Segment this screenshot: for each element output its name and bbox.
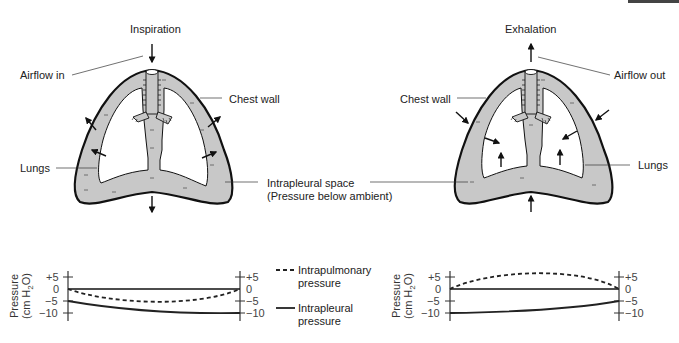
inspiration-pressure-chart [63,271,245,321]
exhalation-pressure-chart [445,271,624,321]
tick-left-0: 0 [435,284,441,295]
tick-right-minus5: −5 [246,296,259,307]
tick-right-minus5: −5 [625,296,638,307]
legend-intrapulmonary-line2: pressure [298,277,341,289]
y-axis-label-left: Pressure (cm H2O) [8,266,37,326]
tick-left-plus5: +5 [428,272,441,283]
tick-left-0: 0 [53,284,59,295]
y-axis-label-right: Pressure (cm H2O) [390,266,419,326]
legend-intrapulmonary-line1: Intrapulmonary [298,264,371,276]
exhalation-thorax [370,44,630,212]
intrapulmonary-curve [450,273,619,289]
inspiration-title: Inspiration [130,23,181,35]
tick-left-minus10: −10 [39,308,58,319]
exhalation-title: Exhalation [505,23,556,35]
tick-left-plus5: +5 [46,272,59,283]
ylabel-pressure: Pressure [390,266,402,326]
legend [276,270,295,308]
legend-intrapleural-line1: Intrapleural [298,302,353,314]
inspiration-thorax [56,44,258,212]
chest-wall-label-left: Chest wall [229,93,280,105]
tick-left-minus10: −10 [421,308,440,319]
tick-left-minus5: −5 [45,296,58,307]
tick-right-plus5: +5 [625,272,638,283]
tick-right-0: 0 [625,284,631,295]
pressure-below-ambient-label: (Pressure below ambient) [267,190,392,202]
airflow-out-label: Airflow out [614,69,665,81]
tick-right-plus5: +5 [246,272,259,283]
diagram-canvas [0,0,679,343]
chest-wall-label-right: Chest wall [400,93,451,105]
trachea [525,72,537,114]
lungs-label-right: Lungs [638,159,668,171]
tick-right-minus10: −10 [246,308,265,319]
tick-right-0: 0 [246,284,252,295]
lungs-label-left: Lungs [20,162,50,174]
legend-intrapleural-line2: pressure [298,315,341,327]
airflow-out-leader [538,57,610,75]
ylabel-pressure: Pressure [8,266,20,326]
intrapleural-curve [450,301,619,313]
airflow-in-label: Airflow in [20,69,65,81]
trachea [146,72,158,114]
ylabel-units: (cm H2O) [20,266,37,326]
airflow-in-leader [72,56,143,75]
ylabel-units: (cm H2O) [402,266,419,326]
tick-left-minus5: −5 [427,296,440,307]
tick-right-minus10: −10 [625,308,644,319]
intrapleural-curve [68,301,240,313]
intrapulmonary-curve [68,289,240,302]
intrapleural-space-label: Intrapleural space [267,177,354,189]
